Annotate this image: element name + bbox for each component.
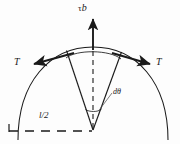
- label-angle-dtheta: dθ: [113, 88, 121, 96]
- label-tau-b: τb: [78, 3, 87, 13]
- label-half-length: l/2: [39, 111, 49, 120]
- line-tension-arrow-left: [34, 53, 74, 64]
- label-burgers-vector-symbol: b: [82, 2, 87, 13]
- wedge-left-radius: [67, 51, 94, 131]
- figure-container: τb T T dθ l/2: [0, 0, 180, 144]
- label-line-tension-left: T: [14, 57, 20, 67]
- dislocation-bowing-diagram: [0, 0, 180, 144]
- label-line-tension-right: T: [156, 57, 162, 67]
